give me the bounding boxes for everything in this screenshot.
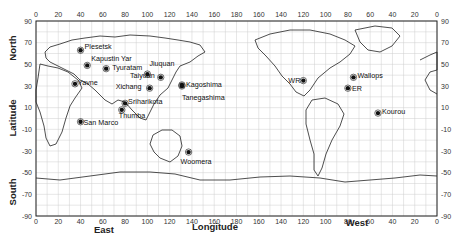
launch-sites: PlesetskKapustin YarTyuratamJiuquanTaiyu… bbox=[72, 42, 405, 166]
tick-label: 40 bbox=[77, 218, 85, 225]
tick-label: 160 bbox=[253, 11, 265, 18]
x-label-west: West bbox=[346, 217, 369, 228]
tick-label: 50 bbox=[24, 61, 32, 68]
tick-label: 70 bbox=[441, 39, 449, 46]
tick-label: 100 bbox=[320, 11, 332, 18]
x-label-longitude: Longitude bbox=[192, 221, 238, 232]
site-marker-icon bbox=[180, 84, 184, 88]
tick-label: -30 bbox=[441, 148, 451, 155]
site-label: Tyuratam bbox=[112, 63, 142, 72]
tick-label: 10 bbox=[441, 104, 449, 111]
tick-label: -70 bbox=[441, 191, 451, 198]
site-label: Yavne bbox=[78, 78, 98, 87]
site-label: Thumba bbox=[119, 111, 145, 120]
y-label-latitude: Latitude bbox=[7, 100, 18, 137]
launch-site-wallops: Wallops bbox=[350, 71, 383, 80]
launch-site-taiyuan: Taiyuan bbox=[130, 71, 164, 80]
site-label: Sriharikota bbox=[128, 97, 162, 106]
site-marker-icon bbox=[376, 111, 380, 115]
tick-label: 90 bbox=[441, 18, 449, 25]
tick-label: 0 bbox=[435, 11, 439, 18]
tick-label: 40 bbox=[389, 11, 397, 18]
tick-label: -10 bbox=[441, 126, 451, 133]
tick-label: 20 bbox=[411, 11, 419, 18]
tick-label: 80 bbox=[344, 11, 352, 18]
site-marker-icon bbox=[78, 120, 82, 124]
site-label: Taiyuan bbox=[130, 71, 155, 80]
left-axis-ticks: 9070503010-10-30-50-70-90 bbox=[22, 18, 32, 220]
tick-label: 70 bbox=[24, 39, 32, 46]
launch-site-sriharikota: Sriharikota bbox=[122, 97, 163, 106]
site-label: Kourou bbox=[382, 107, 405, 116]
tick-label: 100 bbox=[142, 11, 154, 18]
tick-label: -30 bbox=[22, 148, 32, 155]
tick-label: -90 bbox=[441, 213, 451, 220]
launch-site-kagoshima: Kagoshima bbox=[179, 80, 222, 89]
tick-label: 40 bbox=[389, 218, 397, 225]
tick-label: 140 bbox=[186, 11, 198, 18]
y-label-south: South bbox=[7, 178, 18, 205]
tick-label: 20 bbox=[54, 11, 62, 18]
launch-sites-map: 0204060801001201401601801601401201008060… bbox=[0, 0, 454, 238]
tick-label: 160 bbox=[253, 218, 265, 225]
tick-label: 90 bbox=[24, 18, 32, 25]
tick-label: 50 bbox=[441, 61, 449, 68]
launch-site-yavne: Yavne bbox=[72, 78, 98, 87]
site-marker-icon bbox=[85, 63, 89, 67]
site-label: San Marco bbox=[84, 118, 119, 127]
site-marker-icon bbox=[159, 75, 163, 79]
tick-label: 0 bbox=[34, 11, 38, 18]
tick-label: 0 bbox=[435, 218, 439, 225]
tick-label: 80 bbox=[121, 218, 129, 225]
launch-site-kourou: Kourou bbox=[375, 107, 405, 116]
y-label-north: North bbox=[7, 35, 18, 61]
tick-label: 30 bbox=[24, 83, 32, 90]
site-label: ER bbox=[352, 84, 362, 93]
site-label: Xichang bbox=[116, 82, 142, 91]
tick-label: 180 bbox=[231, 11, 243, 18]
site-label: Tanegashima bbox=[182, 93, 225, 102]
tick-label: -50 bbox=[22, 169, 32, 176]
tick-label: 100 bbox=[142, 218, 154, 225]
site-marker-icon bbox=[123, 101, 127, 105]
tick-label: 80 bbox=[121, 11, 129, 18]
site-label: Kagoshima bbox=[186, 80, 222, 89]
launch-site-thumba: Thumba bbox=[119, 107, 146, 120]
tick-label: 120 bbox=[297, 11, 309, 18]
top-axis-ticks: 0204060801001201401601801601401201008060… bbox=[34, 11, 439, 18]
site-marker-icon bbox=[346, 86, 350, 90]
x-label-east: East bbox=[94, 224, 115, 235]
tick-label: 100 bbox=[320, 218, 332, 225]
site-marker-icon bbox=[73, 82, 77, 86]
tick-label: 160 bbox=[208, 11, 220, 18]
site-marker-icon bbox=[104, 66, 108, 70]
site-label: WR bbox=[288, 76, 300, 85]
launch-site-woomera: Woomera bbox=[181, 149, 212, 166]
site-label: Plesetsk bbox=[85, 42, 113, 51]
site-marker-icon bbox=[78, 48, 82, 52]
tick-label: 120 bbox=[297, 218, 309, 225]
tick-label: 140 bbox=[275, 218, 287, 225]
tick-label: 20 bbox=[411, 218, 419, 225]
site-label: Woomera bbox=[181, 157, 212, 166]
tick-label: 10 bbox=[24, 104, 32, 111]
tick-label: -10 bbox=[22, 126, 32, 133]
launch-site-wr: WR bbox=[288, 76, 306, 85]
tick-label: -50 bbox=[441, 169, 451, 176]
tick-label: 20 bbox=[54, 218, 62, 225]
launch-site-plesetsk: Plesetsk bbox=[77, 42, 112, 53]
tick-label: 120 bbox=[164, 218, 176, 225]
site-marker-icon bbox=[186, 150, 190, 154]
tick-label: 140 bbox=[275, 11, 287, 18]
tick-label: 30 bbox=[441, 83, 449, 90]
launch-site-san-marco: San Marco bbox=[77, 118, 118, 127]
site-label: Jiuquan bbox=[149, 59, 174, 68]
tick-label: 40 bbox=[77, 11, 85, 18]
right-axis-ticks: 9070503010-10-30-50-70-90 bbox=[441, 18, 451, 220]
tick-label: 60 bbox=[99, 11, 107, 18]
site-label: Wallops bbox=[357, 71, 383, 80]
tick-label: 60 bbox=[366, 11, 374, 18]
launch-site-er: ER bbox=[345, 84, 362, 93]
site-marker-icon bbox=[351, 75, 355, 79]
tick-label: 0 bbox=[34, 218, 38, 225]
